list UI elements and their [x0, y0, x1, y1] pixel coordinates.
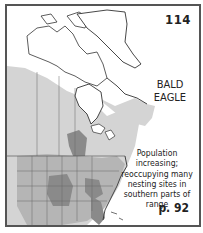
species-name-line2: EAGLE — [145, 91, 195, 104]
range-map-plate: 114 BALD EAGLE Population increasing; re… — [5, 4, 201, 227]
plate-number: 114 — [165, 12, 191, 27]
page-reference: p. 92 — [158, 201, 189, 215]
species-name: BALD EAGLE — [145, 78, 195, 104]
species-name-line1: BALD — [145, 78, 195, 91]
